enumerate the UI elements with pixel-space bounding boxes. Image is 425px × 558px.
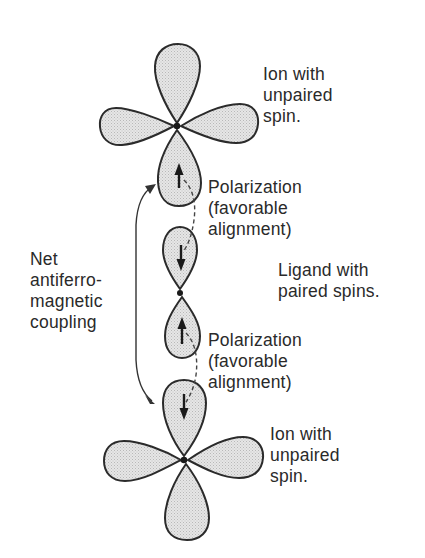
- arrowhead-down-icon: [145, 395, 155, 404]
- bottom-ion-lobe-left: [104, 441, 181, 481]
- ligand-nucleus: [177, 290, 183, 296]
- coupling-double-arrow: [136, 184, 156, 404]
- coupling-label: Net antiferro- magnetic coupling: [30, 249, 103, 333]
- bottom-ion-nucleus: [181, 457, 188, 464]
- top-ion-label: Ion with unpaired spin.: [263, 64, 333, 127]
- top-ion-lobe-left: [100, 108, 174, 145]
- bottom-ion-label: Ion with unpaired spin.: [270, 424, 340, 487]
- ligand-orbital: [163, 227, 200, 358]
- ligand-label: Ligand with paired spins.: [278, 260, 380, 302]
- top-ion-lobe-right: [181, 104, 258, 143]
- top-ion-nucleus: [174, 123, 181, 130]
- polarization-top-label: Polarization (favorable alignment): [208, 177, 302, 240]
- bottom-ion-lobe-down: [165, 464, 209, 540]
- arrowhead-up-icon: [145, 184, 156, 194]
- top-ion-lobe-up: [155, 44, 200, 123]
- bottom-ion-lobe-right: [188, 437, 263, 478]
- bottom-ion-orbital: [104, 380, 263, 540]
- polarization-bottom-label: Polarization (favorable alignment): [208, 330, 302, 393]
